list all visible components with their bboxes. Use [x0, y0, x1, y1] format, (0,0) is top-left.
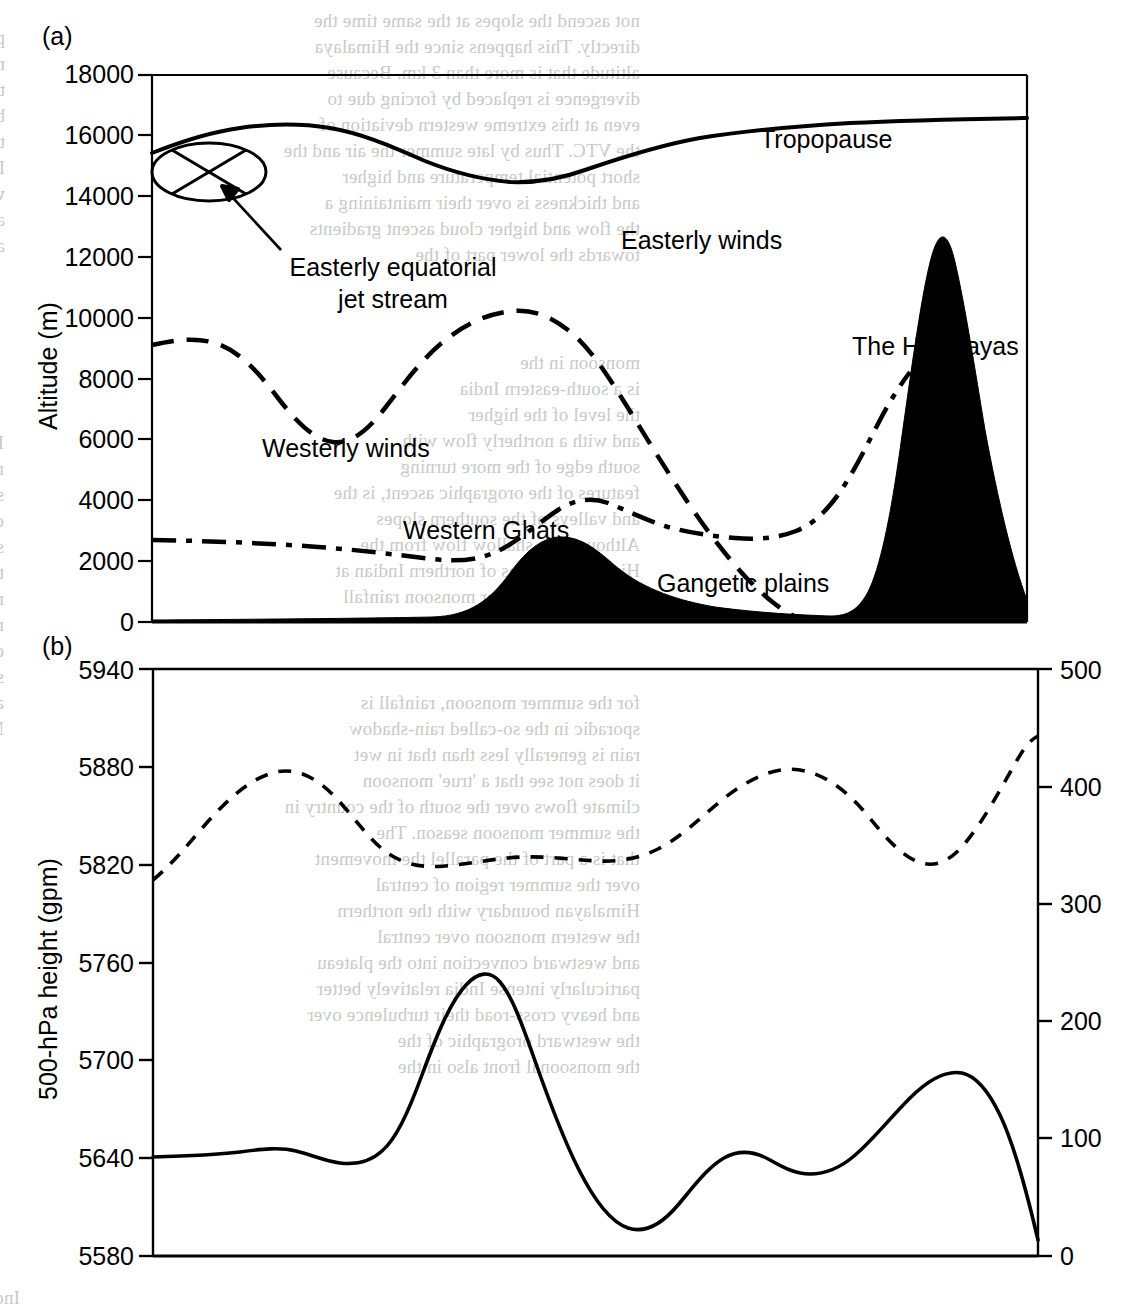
panel-b-axes [139, 669, 1052, 1256]
height-500hpa-curve [153, 974, 1038, 1240]
panel-b-left-ticks [139, 669, 153, 1256]
panel-b-right-ticks [1038, 669, 1052, 1256]
rainfall-curve [153, 736, 1038, 880]
